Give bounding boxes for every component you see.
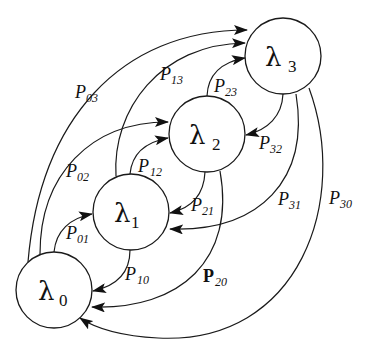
label-p02: P 02 (65, 161, 89, 184)
node-lambda-2: λ 2 (169, 96, 245, 172)
label-p20-letter: P (203, 266, 214, 286)
label-p30-letter: P (328, 188, 340, 208)
node-1-subscript: 1 (131, 213, 140, 232)
label-p12: P 12 (137, 156, 162, 179)
label-p32-subscript: 32 (269, 142, 282, 156)
node-lambda-1: λ 1 (93, 174, 169, 250)
label-p31-letter: P (277, 189, 289, 209)
label-p01-subscript: 01 (77, 232, 89, 246)
label-p32-letter: P (258, 133, 270, 153)
label-p01-letter: P (65, 223, 77, 243)
node-0-subscript: 0 (59, 291, 68, 310)
node-1-symbol: λ (114, 198, 130, 228)
label-p01: P 01 (65, 223, 89, 246)
label-p13-letter: P (159, 64, 171, 84)
label-p02-letter: P (65, 161, 77, 181)
node-2-subscript: 2 (212, 135, 221, 154)
label-p10-subscript: 10 (137, 273, 149, 287)
edge-p12 (130, 138, 168, 174)
label-p10: P 10 (124, 264, 149, 287)
node-lambda-3: λ 3 (245, 18, 321, 94)
edge-p32 (246, 94, 283, 135)
label-p20: P 20 (203, 266, 227, 289)
node-0-symbol: λ (38, 276, 54, 306)
label-p30: P 30 (328, 188, 352, 211)
label-p21-letter: P (190, 195, 202, 215)
label-p20-subscript: 20 (215, 275, 227, 289)
label-p30-subscript: 30 (339, 197, 352, 211)
label-p31: P 31 (277, 189, 301, 212)
label-p23: P 23 (213, 76, 237, 99)
state-transition-diagram: λ 3 λ 2 λ 1 λ 0 P 03 P 13 P 23 P 02 P 12… (0, 0, 367, 353)
label-p32: P 32 (258, 133, 282, 156)
node-lambda-0: λ 0 (16, 252, 92, 328)
label-p13: P 13 (159, 64, 183, 87)
node-2-symbol: λ (189, 120, 205, 150)
label-p02-subscript: 02 (77, 170, 89, 184)
node-3-subscript: 3 (288, 57, 297, 76)
label-p13-subscript: 13 (171, 73, 183, 87)
label-p03-subscript: 03 (86, 91, 98, 105)
label-p31-subscript: 31 (288, 198, 301, 212)
label-p21-subscript: 21 (202, 204, 214, 218)
label-p03: P 03 (74, 82, 98, 105)
label-p10-letter: P (124, 264, 136, 284)
label-p23-letter: P (213, 76, 225, 96)
label-p12-subscript: 12 (150, 165, 162, 179)
label-p21: P 21 (190, 195, 214, 218)
label-p12-letter: P (137, 156, 149, 176)
label-p03-letter: P (74, 82, 86, 102)
node-3-symbol: λ (265, 42, 281, 72)
label-p23-subscript: 23 (225, 85, 237, 99)
